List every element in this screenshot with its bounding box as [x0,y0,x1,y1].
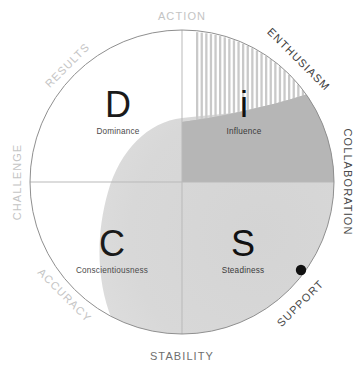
quadrant-name-influence: Influence [226,127,261,136]
hatch-stripes-group [182,32,344,200]
quadrant-name-dominance: Dominance [96,127,139,136]
axis-label-action: ACTION [158,10,206,22]
quadrant-letter-i: i [240,84,248,125]
quadrant-name-conscientiousness: Conscientiousness [76,266,148,275]
quadrant-letter-s: S [231,223,255,264]
disc-circumplex-diagram: D Dominance i Influence C Conscientiousn… [0,0,360,372]
axis-label-collaboration: COLLABORATION [342,128,354,235]
disc-svg-canvas: D Dominance i Influence C Conscientiousn… [0,0,360,372]
respondent-marker-dot[interactable] [296,265,306,275]
quadrant-name-steadiness: Steadiness [222,266,265,275]
quadrant-letter-d: D [105,84,131,125]
axis-label-challenge: CHALLENGE [11,144,23,221]
quadrant-letter-c: C [99,223,125,264]
axis-label-stability: STABILITY [150,350,214,362]
